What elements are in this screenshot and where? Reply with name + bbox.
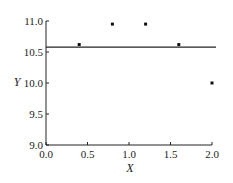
x-axis-label: X xyxy=(125,161,134,175)
x-tick-label: 2.0 xyxy=(205,148,219,160)
scatter-chart: 0.00.51.01.52.09.09.510.010.511.0 X Y xyxy=(0,0,233,183)
axes xyxy=(46,21,212,145)
ticks: 0.00.51.01.52.09.09.510.010.511.0 xyxy=(24,15,220,160)
data-point xyxy=(78,43,81,46)
data-point xyxy=(111,23,114,26)
y-axis-label: Y xyxy=(14,75,22,89)
y-tick-label: 9.0 xyxy=(29,139,43,151)
y-tick-label: 10.0 xyxy=(24,77,44,89)
x-tick-label: 0.5 xyxy=(81,148,95,160)
y-tick-label: 9.5 xyxy=(29,108,43,120)
y-tick-label: 11.0 xyxy=(24,15,43,27)
x-tick-label: 1.0 xyxy=(122,148,136,160)
y-tick-label: 10.5 xyxy=(24,46,44,58)
data-points xyxy=(78,23,214,85)
data-point xyxy=(144,23,147,26)
x-tick-label: 1.5 xyxy=(164,148,178,160)
data-point xyxy=(211,82,214,85)
data-point xyxy=(177,43,180,46)
